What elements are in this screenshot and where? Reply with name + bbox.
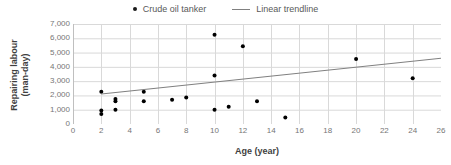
y-axis-tick-label: 7,000: [38, 20, 70, 28]
x-axis-tick-label: 12: [231, 127, 255, 135]
y-axis-tick-label: 1,000: [38, 106, 70, 114]
plot-area: [73, 24, 441, 124]
legend-label-crude-oil-tanker: Crude oil tanker: [143, 5, 207, 14]
data-point[interactable]: [241, 44, 245, 48]
data-point[interactable]: [99, 90, 103, 94]
y-axis-tick-labels: 01,0002,0003,0004,0005,0006,0007,000: [32, 0, 70, 165]
data-point[interactable]: [255, 99, 259, 103]
x-axis-title: Age (year): [73, 146, 441, 156]
legend-label-linear-trendline: Linear trendline: [256, 5, 318, 14]
x-axis-tick-label: 2: [89, 127, 113, 135]
y-axis-tick-label: 3,000: [38, 77, 70, 85]
line-marker-icon: [232, 9, 250, 10]
x-axis-tick-label: 14: [259, 127, 283, 135]
data-point[interactable]: [184, 96, 188, 100]
y-axis-title-line-2: (man-day): [20, 54, 31, 97]
x-axis-tick-label: 8: [174, 127, 198, 135]
data-point[interactable]: [113, 99, 117, 103]
x-axis-tick-label: 4: [118, 127, 142, 135]
data-point[interactable]: [283, 116, 287, 120]
data-point[interactable]: [213, 73, 217, 77]
y-axis-title-line-1: Repairing labour: [9, 39, 20, 111]
data-point[interactable]: [113, 108, 117, 112]
legend-entry-crude-oil-tanker[interactable]: Crude oil tanker: [133, 5, 207, 14]
x-axis-tick-label: 20: [344, 127, 368, 135]
data-point[interactable]: [99, 108, 103, 112]
x-axis-tick-label: 0: [61, 127, 85, 135]
data-point[interactable]: [142, 99, 146, 103]
x-axis-tick-label: 26: [429, 127, 451, 135]
data-point[interactable]: [142, 90, 146, 94]
x-axis-tick-label: 10: [203, 127, 227, 135]
data-point[interactable]: [99, 112, 103, 116]
y-axis-tick-label: 4,000: [38, 63, 70, 71]
y-axis-tick-label: 2,000: [38, 91, 70, 99]
data-point[interactable]: [170, 98, 174, 102]
data-point[interactable]: [213, 108, 217, 112]
x-axis-tick-label: 16: [287, 127, 311, 135]
y-axis-tick-label: 6,000: [38, 34, 70, 42]
x-axis-tick-label: 22: [372, 127, 396, 135]
x-axis-tick-label: 6: [146, 127, 170, 135]
plot-canvas: [73, 24, 441, 124]
data-point[interactable]: [213, 33, 217, 37]
y-axis-tick-label: 5,000: [38, 49, 70, 57]
data-point[interactable]: [227, 105, 231, 109]
x-axis-tick-label: 24: [401, 127, 425, 135]
x-axis-tick-label: 18: [316, 127, 340, 135]
legend-entry-linear-trendline[interactable]: Linear trendline: [232, 5, 318, 14]
scatter-chart: Crude oil tanker Linear trendline Repair…: [0, 0, 451, 165]
data-point[interactable]: [411, 76, 415, 80]
data-point[interactable]: [354, 57, 358, 61]
dot-marker-icon: [133, 7, 137, 11]
